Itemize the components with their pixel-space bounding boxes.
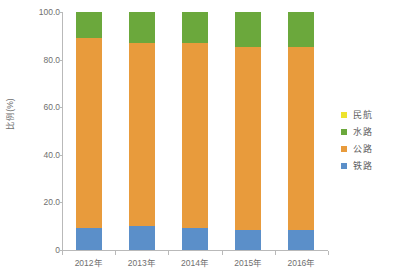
bar-group[interactable] <box>76 12 102 250</box>
legend-swatch-icon <box>341 146 347 152</box>
x-axis-tick-label: 2014年 <box>181 256 209 268</box>
bar-group[interactable] <box>182 12 208 250</box>
bar-segment[interactable] <box>182 228 208 250</box>
bar-group[interactable] <box>288 12 314 250</box>
x-axis-tick-mark <box>115 251 116 255</box>
bar-segment[interactable] <box>76 12 102 38</box>
x-axis-tick-mark <box>62 251 63 255</box>
y-axis-tick-label: 0 <box>0 245 60 255</box>
bar-stack <box>235 12 261 250</box>
y-axis-tick-label: 20.0 <box>0 197 60 207</box>
bar-stack <box>182 12 208 250</box>
bar-segment[interactable] <box>288 12 314 46</box>
bars-layer <box>62 12 328 250</box>
x-axis-tick-label: 2016年 <box>287 256 315 268</box>
x-axis-tick-mark <box>222 251 223 255</box>
legend-label: 公路 <box>353 142 372 155</box>
stacked-bar-chart: 比例(%) 020.040.060.080.0100.0 2012年2013年2… <box>0 0 393 277</box>
bar-segment[interactable] <box>288 47 314 230</box>
chart-legend: 民航水路公路铁路 <box>341 106 393 174</box>
bar-segment[interactable] <box>235 47 261 230</box>
legend-item-民航[interactable]: 民航 <box>341 106 393 123</box>
bar-segment[interactable] <box>288 230 314 250</box>
bar-group[interactable] <box>129 12 155 250</box>
x-axis-line <box>62 250 328 251</box>
bar-segment[interactable] <box>182 12 208 43</box>
bar-stack <box>129 12 155 250</box>
x-axis-tick-label: 2012年 <box>75 256 103 268</box>
y-axis-title: 比例(%) <box>3 79 15 149</box>
x-axis-tick-label: 2015年 <box>234 256 262 268</box>
y-axis-tick-label: 60.0 <box>0 102 60 112</box>
bar-segment[interactable] <box>129 226 155 250</box>
bar-segment[interactable] <box>235 12 261 47</box>
legend-item-水路[interactable]: 水路 <box>341 123 393 140</box>
bar-segment[interactable] <box>76 38 102 227</box>
bar-stack <box>76 12 102 250</box>
bar-stack <box>288 12 314 250</box>
bar-segment[interactable] <box>235 230 261 250</box>
legend-item-公路[interactable]: 公路 <box>341 140 393 157</box>
legend-swatch-icon <box>341 112 347 118</box>
bar-segment[interactable] <box>129 43 155 226</box>
x-axis-tick-mark <box>328 251 329 255</box>
legend-label: 铁路 <box>353 159 372 172</box>
x-axis-tick-mark <box>275 251 276 255</box>
bar-segment[interactable] <box>182 43 208 228</box>
y-axis-tick-label: 80.0 <box>0 55 60 65</box>
legend-label: 水路 <box>353 125 372 138</box>
x-axis-tick-label: 2013年 <box>128 256 156 268</box>
bar-segment[interactable] <box>76 228 102 250</box>
legend-swatch-icon <box>341 129 347 135</box>
legend-swatch-icon <box>341 163 347 169</box>
legend-label: 民航 <box>353 108 372 121</box>
bar-segment[interactable] <box>129 12 155 43</box>
x-axis-tick-mark <box>168 251 169 255</box>
y-axis-tick-label: 40.0 <box>0 150 60 160</box>
bar-group[interactable] <box>235 12 261 250</box>
y-axis-tick-label: 100.0 <box>0 7 60 17</box>
legend-item-铁路[interactable]: 铁路 <box>341 157 393 174</box>
